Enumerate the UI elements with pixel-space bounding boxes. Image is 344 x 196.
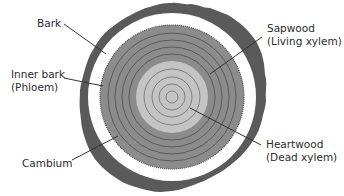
bark-leader-line [64,24,106,54]
heartwood-area [136,61,208,133]
label-inner-bark-line2: (Phloem) [11,81,65,94]
tree-cross-section-diagram: Bark Inner bark (Phloem) Cambium Sapwood… [0,0,344,196]
label-heartwood-line1: Heartwood [266,138,337,151]
label-sapwood: Sapwood (Living xylem) [267,22,342,47]
label-sapwood-line2: (Living xylem) [267,35,342,48]
label-sapwood-line1: Sapwood [267,22,342,35]
label-inner-bark-line1: Inner bark [11,68,65,81]
label-bark: Bark [37,17,61,30]
label-heartwood-line2: (Dead xylem) [266,151,337,164]
label-cambium: Cambium [22,157,72,170]
label-heartwood: Heartwood (Dead xylem) [266,138,337,163]
label-inner-bark: Inner bark (Phloem) [11,68,65,93]
